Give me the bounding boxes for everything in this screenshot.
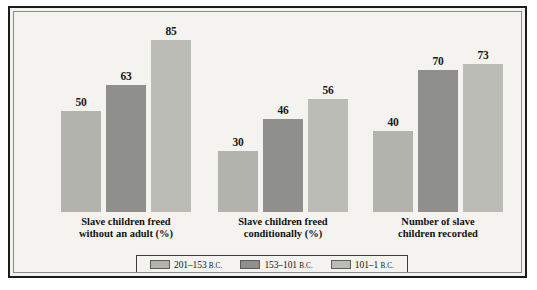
category-label-line: Slave children freed (41, 216, 211, 228)
bar-value-label: 40 (387, 117, 398, 129)
legend-label-era: B.C. (380, 262, 394, 270)
bar-item[interactable]: 30 (218, 12, 258, 212)
legend-swatch-icon (240, 260, 260, 269)
category-label-line: children recorded (353, 228, 522, 240)
bar-rect[interactable] (263, 119, 303, 212)
legend-label: 153–101 B.C. (264, 260, 312, 270)
bar-item[interactable]: 63 (106, 12, 146, 212)
bar-item[interactable]: 70 (418, 12, 458, 212)
category-label-line: conditionally (%) (198, 228, 368, 240)
bar-group-1: 506385 (52, 12, 200, 212)
chart-figure-frame: 506385304656407073 Slave children freedw… (8, 6, 527, 278)
bar-value-label: 50 (75, 97, 86, 109)
category-label-line: Slave children freed (198, 216, 368, 228)
bar-group-bars: 304656 (209, 12, 357, 212)
bar-rect[interactable] (308, 99, 348, 212)
category-label-3: Number of slavechildren recorded (353, 216, 522, 240)
bar-group-bars: 506385 (52, 12, 200, 212)
bar-group-2: 304656 (209, 12, 357, 212)
legend-label: 101–1 B.C. (355, 260, 394, 270)
bar-item[interactable]: 40 (373, 12, 413, 212)
legend-label-range: 101–1 (355, 260, 381, 270)
bar-rect[interactable] (373, 131, 413, 212)
plot-area: 506385304656407073 (14, 12, 521, 212)
legend-label-range: 201–153 (174, 260, 209, 270)
legend-label-era: B.C. (299, 262, 313, 270)
bar-group-bars: 407073 (364, 12, 512, 212)
bar-value-label: 30 (232, 137, 243, 149)
legend-label-range: 153–101 (264, 260, 299, 270)
bar-value-label: 46 (277, 105, 288, 117)
bar-group-3: 407073 (364, 12, 512, 212)
bar-rect[interactable] (106, 85, 146, 212)
legend-item-3[interactable]: 101–1 B.C. (331, 260, 394, 270)
category-label-line: Number of slave (353, 216, 522, 228)
bar-rect[interactable] (463, 64, 503, 212)
bar-item[interactable]: 73 (463, 12, 503, 212)
legend-item-1[interactable]: 201–153 B.C. (150, 260, 222, 270)
chart-figure-inner: 506385304656407073 Slave children freedw… (13, 11, 522, 273)
bar-value-label: 70 (432, 56, 443, 68)
legend-label-era: B.C. (209, 262, 223, 270)
category-label-line: without an adult (%) (41, 228, 211, 240)
bar-item[interactable]: 46 (263, 12, 303, 212)
legend-swatch-icon (150, 260, 170, 269)
bar-value-label: 63 (120, 71, 131, 83)
bar-item[interactable]: 50 (61, 12, 101, 212)
bar-rect[interactable] (418, 70, 458, 212)
legend-item-2[interactable]: 153–101 B.C. (240, 260, 312, 270)
category-label-1: Slave children freedwithout an adult (%) (41, 216, 211, 240)
chart-legend: 201–153 B.C.153–101 B.C.101–1 B.C. (136, 255, 408, 273)
bar-value-label: 73 (477, 50, 488, 62)
legend-swatch-icon (331, 260, 351, 269)
bar-rect[interactable] (218, 151, 258, 212)
bar-rect[interactable] (151, 40, 191, 212)
bar-rect[interactable] (61, 111, 101, 212)
legend-label: 201–153 B.C. (174, 260, 222, 270)
category-label-2: Slave children freedconditionally (%) (198, 216, 368, 240)
bar-item[interactable]: 85 (151, 12, 191, 212)
bar-value-label: 85 (165, 26, 176, 38)
bar-value-label: 56 (322, 85, 333, 97)
bar-item[interactable]: 56 (308, 12, 348, 212)
